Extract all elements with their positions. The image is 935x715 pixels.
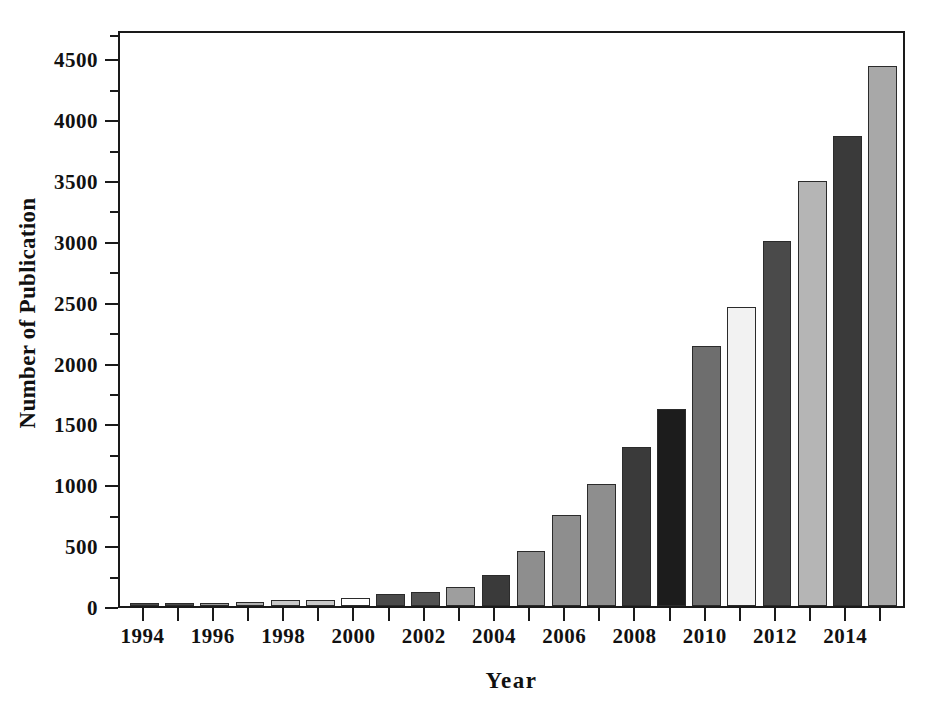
y-tick-label-3500: 3500 bbox=[54, 171, 98, 192]
x-axis-title: Year bbox=[118, 668, 905, 694]
y-tick-label-2500: 2500 bbox=[54, 293, 98, 314]
y-tick-label-1000: 1000 bbox=[54, 476, 98, 497]
x-tick-label-2014: 2014 bbox=[823, 624, 867, 649]
y-tick-major-3500 bbox=[105, 181, 118, 183]
y-tick-minor-1250 bbox=[110, 455, 118, 457]
y-tick-label-4500: 4500 bbox=[54, 50, 98, 71]
x-tick-1995 bbox=[177, 608, 179, 621]
x-tick-label-2002: 2002 bbox=[402, 624, 446, 649]
y-tick-minor-4700 bbox=[110, 35, 118, 37]
x-tick-2012 bbox=[774, 608, 776, 621]
x-tick-1999 bbox=[317, 608, 319, 621]
y-tick-major-3000 bbox=[105, 242, 118, 244]
plot-frame bbox=[118, 31, 905, 608]
x-tick-2005 bbox=[528, 608, 530, 621]
x-tick-label-2006: 2006 bbox=[542, 624, 586, 649]
plot-area bbox=[120, 33, 903, 606]
bar-1999 bbox=[306, 600, 335, 606]
y-tick-major-500 bbox=[105, 546, 118, 548]
x-tick-label-1998: 1998 bbox=[261, 624, 305, 649]
y-tick-major-4000 bbox=[105, 120, 118, 122]
x-tick-label-2012: 2012 bbox=[753, 624, 797, 649]
x-tick-2013 bbox=[809, 608, 811, 621]
x-tick-label-1996: 1996 bbox=[191, 624, 235, 649]
y-tick-major-1000 bbox=[105, 485, 118, 487]
publication-bar-chart-figure: 050010001500200025003000350040004500 Num… bbox=[0, 0, 935, 715]
y-tick-minor-2250 bbox=[110, 333, 118, 335]
bar-2006 bbox=[552, 515, 581, 606]
y-tick-minor-2750 bbox=[110, 272, 118, 274]
bar-2014 bbox=[833, 136, 862, 606]
x-tick-label-2008: 2008 bbox=[612, 624, 656, 649]
bar-2013 bbox=[798, 181, 827, 606]
bar-2002 bbox=[411, 592, 440, 606]
y-tick-label-1500: 1500 bbox=[54, 415, 98, 436]
bar-2010 bbox=[692, 346, 721, 606]
x-tick-2007 bbox=[598, 608, 600, 621]
y-tick-minor-1750 bbox=[110, 394, 118, 396]
y-tick-label-3000: 3000 bbox=[54, 232, 98, 253]
y-tick-minor-3250 bbox=[110, 211, 118, 213]
y-tick-major-2000 bbox=[105, 364, 118, 366]
bar-2012 bbox=[763, 241, 792, 606]
y-tick-label-2000: 2000 bbox=[54, 354, 98, 375]
bar-1995 bbox=[165, 603, 194, 606]
bar-1994 bbox=[130, 603, 159, 606]
x-tick-2011 bbox=[739, 608, 741, 621]
bar-2003 bbox=[446, 587, 475, 606]
y-tick-major-0 bbox=[105, 607, 118, 609]
x-axis: 1994199619982000200220042006200820102012… bbox=[118, 608, 905, 668]
bar-2001 bbox=[376, 594, 405, 606]
y-tick-major-4500 bbox=[105, 59, 118, 61]
bar-2015 bbox=[868, 66, 897, 606]
x-tick-2006 bbox=[563, 608, 565, 621]
x-tick-1996 bbox=[212, 608, 214, 621]
x-tick-label-2000: 2000 bbox=[331, 624, 375, 649]
x-tick-1998 bbox=[282, 608, 284, 621]
x-tick-2009 bbox=[669, 608, 671, 621]
y-tick-major-1500 bbox=[105, 424, 118, 426]
x-tick-1994 bbox=[142, 608, 144, 621]
x-tick-2003 bbox=[458, 608, 460, 621]
y-tick-minor-250 bbox=[110, 577, 118, 579]
x-tick-label-2010: 2010 bbox=[683, 624, 727, 649]
bar-2000 bbox=[341, 598, 370, 606]
x-tick-1997 bbox=[247, 608, 249, 621]
y-tick-minor-3750 bbox=[110, 151, 118, 153]
y-tick-major-2500 bbox=[105, 303, 118, 305]
y-tick-label-500: 500 bbox=[65, 537, 98, 558]
x-tick-2001 bbox=[388, 608, 390, 621]
bar-2007 bbox=[587, 484, 616, 606]
y-tick-minor-750 bbox=[110, 516, 118, 518]
bar-1997 bbox=[236, 602, 265, 606]
x-tick-label-2004: 2004 bbox=[472, 624, 516, 649]
bar-2004 bbox=[482, 575, 511, 606]
bar-2009 bbox=[657, 409, 686, 606]
bar-1996 bbox=[200, 603, 229, 606]
x-tick-2015 bbox=[879, 608, 881, 621]
bar-1998 bbox=[271, 600, 300, 606]
x-tick-2010 bbox=[704, 608, 706, 621]
x-tick-2004 bbox=[493, 608, 495, 621]
x-tick-label-1994: 1994 bbox=[121, 624, 165, 649]
y-tick-minor-4250 bbox=[110, 90, 118, 92]
y-tick-label-0: 0 bbox=[87, 598, 98, 619]
bar-2011 bbox=[727, 307, 756, 606]
y-axis-title: Number of Publication bbox=[15, 113, 41, 513]
y-tick-label-4000: 4000 bbox=[54, 111, 98, 132]
x-tick-2000 bbox=[352, 608, 354, 621]
x-tick-2002 bbox=[423, 608, 425, 621]
x-tick-2008 bbox=[633, 608, 635, 621]
bar-2008 bbox=[622, 447, 651, 606]
x-tick-2014 bbox=[844, 608, 846, 621]
bar-2005 bbox=[517, 551, 546, 606]
